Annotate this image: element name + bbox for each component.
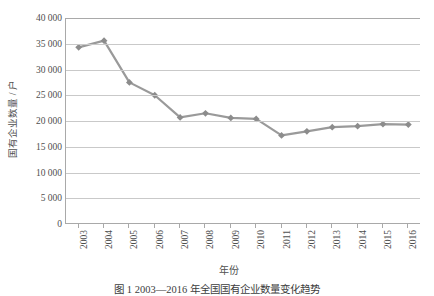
data-point-marker[interactable]	[329, 124, 336, 131]
x-axis-tick-label: 2005	[128, 230, 140, 249]
x-axis-tick-mark	[78, 224, 79, 228]
x-axis-tick-label: 2003	[78, 230, 90, 249]
x-axis-tick: 2006	[147, 230, 161, 264]
x-axis-tick-mark	[331, 224, 332, 228]
figure-caption: 图 1 2003—2016 年全国国有企业数量变化趋势	[0, 281, 434, 296]
x-axis-tick-label: 2015	[382, 230, 394, 249]
gridline	[66, 198, 420, 199]
y-axis-tick-label: 40 000	[18, 13, 62, 23]
gridline	[66, 44, 420, 45]
x-axis-tick: 2009	[223, 230, 237, 264]
x-axis-tick-label: 2010	[255, 230, 267, 249]
y-axis-tick-labels: 40 00035 00030 00025 00020 00015 00010 0…	[18, 0, 62, 289]
x-axis-tick-mark	[407, 224, 408, 228]
x-axis-tick-label: 2013	[331, 230, 343, 249]
x-axis-tick-mark	[255, 224, 256, 228]
x-axis-tick: 2003	[71, 230, 85, 264]
y-axis-tick-label: 0	[18, 219, 62, 229]
data-point-marker[interactable]	[405, 121, 412, 128]
x-axis-title-text: 年份	[195, 265, 239, 276]
x-axis-tick-label: 2016	[407, 230, 419, 249]
x-axis-tick: 2008	[197, 230, 211, 264]
x-axis-tick: 2015	[375, 230, 389, 264]
y-axis-tick-label: 35 000	[18, 39, 62, 49]
x-axis-title: 年份	[0, 262, 434, 277]
x-axis-tick: 2004	[96, 230, 110, 264]
x-axis-tick-mark	[204, 224, 205, 228]
x-axis-tick: 2014	[350, 230, 364, 264]
x-axis-tick-mark	[128, 224, 129, 228]
data-point-marker[interactable]	[303, 128, 310, 135]
x-axis-tick-mark	[382, 224, 383, 228]
x-axis-tick-mark	[230, 224, 231, 228]
x-axis-tick: 2005	[121, 230, 135, 264]
x-axis-tick-label: 2009	[230, 230, 242, 249]
x-axis-tick: 2013	[324, 230, 338, 264]
y-axis-tick-label: 20 000	[18, 116, 62, 126]
x-axis-tick-label: 2007	[179, 230, 191, 249]
x-axis-tick-mark	[306, 224, 307, 228]
figure-caption-text: 图 1 2003—2016 年全国国有企业数量变化趋势	[114, 284, 320, 295]
x-axis-tick: 2016	[400, 230, 414, 264]
x-axis-tick: 2011	[274, 230, 288, 264]
gridline	[66, 95, 420, 96]
x-axis-tick-mark	[357, 224, 358, 228]
y-axis-tick-label: 10 000	[18, 168, 62, 178]
x-axis-tick-label: 2014	[357, 230, 369, 249]
x-axis-tick-label: 2006	[154, 230, 166, 249]
gridline	[66, 173, 420, 174]
x-axis-tick-mark	[281, 224, 282, 228]
plot-area	[65, 18, 420, 224]
gridline	[66, 18, 420, 19]
x-axis-tick-label: 2012	[306, 230, 318, 249]
x-axis-tick-mark	[154, 224, 155, 228]
gridline	[66, 70, 420, 71]
y-axis-tick-label: 5 000	[18, 193, 62, 203]
y-axis-tick-label: 25 000	[18, 90, 62, 100]
x-axis-tick-mark	[103, 224, 104, 228]
x-axis-tick: 2012	[299, 230, 313, 264]
y-axis-tick-label: 30 000	[18, 65, 62, 75]
data-point-marker[interactable]	[354, 123, 361, 130]
x-axis-tick-label: 2004	[103, 230, 115, 249]
y-axis-title-text: 国有企业数量 / 户	[5, 80, 19, 157]
data-point-marker[interactable]	[202, 110, 209, 117]
y-axis-tick-label: 15 000	[18, 142, 62, 152]
x-axis-tick-mark	[179, 224, 180, 228]
gridline	[66, 147, 420, 148]
x-axis-tick: 2010	[248, 230, 262, 264]
gridline	[66, 121, 420, 122]
x-axis-tick-label: 2008	[204, 230, 216, 249]
x-axis-tick: 2007	[172, 230, 186, 264]
data-point-marker[interactable]	[75, 44, 82, 51]
x-axis-tick-label: 2011	[281, 230, 293, 249]
